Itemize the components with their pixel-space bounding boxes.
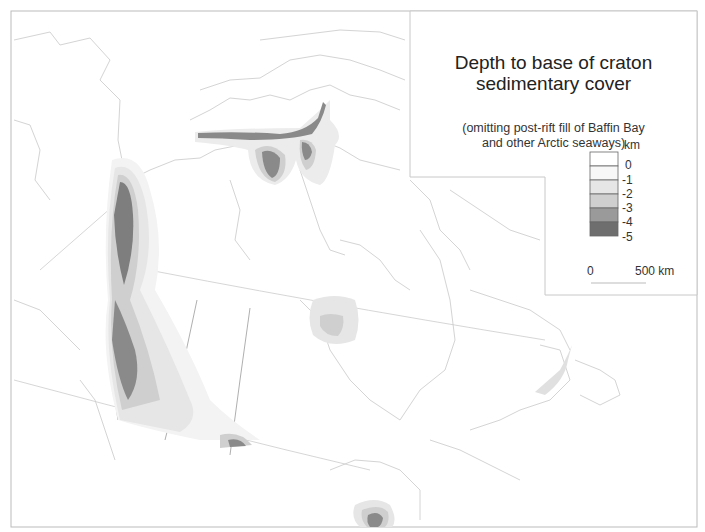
legend-swatches xyxy=(590,152,618,236)
depth-zones-hudson-bay xyxy=(310,296,359,344)
map-subtitle: (omitting post-rift fill of Baffin Bay a… xyxy=(410,121,697,151)
legend-label-2: -2 xyxy=(622,188,633,200)
depth-zones-michigan xyxy=(353,500,394,527)
subtitle-line-2: and other Arctic seaways) xyxy=(410,136,697,151)
legend-label-0: 0 xyxy=(625,159,632,171)
map-title: Depth to base of craton sedimentary cove… xyxy=(410,52,697,94)
legend-label-5: -5 xyxy=(622,231,633,243)
legend-unit: km xyxy=(624,138,640,152)
depth-zones-arctic xyxy=(195,100,339,185)
legend-label-3: -3 xyxy=(622,202,633,214)
boundaries xyxy=(14,200,545,470)
title-line-2: sedimentary cover xyxy=(410,73,697,94)
subtitle-line-1: (omitting post-rift fill of Baffin Bay xyxy=(410,121,697,136)
legend-label-4: -4 xyxy=(622,216,633,228)
scale-end-label: 500 km xyxy=(635,264,674,278)
legend-label-1: -1 xyxy=(622,174,633,186)
title-line-1: Depth to base of craton xyxy=(410,52,697,73)
scale-start-label: 0 xyxy=(587,264,594,278)
